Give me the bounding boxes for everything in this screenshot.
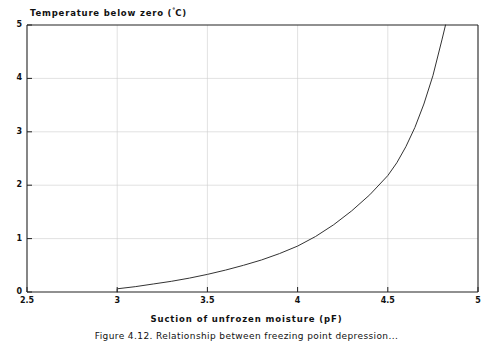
chart-plot-area — [0, 0, 493, 343]
x-axis-tick-label: 2.5 — [7, 296, 47, 305]
gridlines-group — [27, 25, 478, 292]
y-axis-tick-label: 3 — [2, 127, 22, 136]
x-axis-tick-label: 3 — [97, 296, 137, 305]
y-axis-tick-label: 0 — [2, 287, 22, 296]
x-axis-tick-label: 5 — [458, 296, 493, 305]
figure-container: Temperature below zero (°C) 012345 2.533… — [0, 0, 493, 343]
y-axis-tick-label: 2 — [2, 180, 22, 189]
y-axis-tick-label: 5 — [2, 20, 22, 29]
data-series-line — [117, 25, 445, 292]
tick-marks-group — [27, 25, 478, 292]
x-axis-tick-label: 4 — [278, 296, 318, 305]
x-axis-tick-label: 3.5 — [187, 296, 227, 305]
figure-caption: Figure 4.12. Relationship between freezi… — [0, 331, 493, 341]
y-axis-tick-label: 1 — [2, 234, 22, 243]
y-axis-tick-label: 4 — [2, 73, 22, 82]
axis-lines-group — [27, 25, 478, 292]
x-axis-tick-label: 4.5 — [368, 296, 408, 305]
x-axis-label: Suction of unfrozen moisture (pF) — [0, 314, 493, 324]
